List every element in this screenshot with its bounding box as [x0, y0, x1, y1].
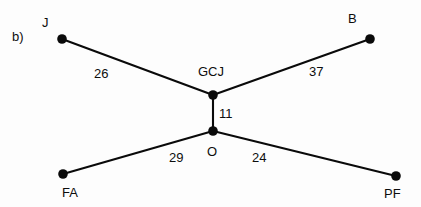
graph-edge: [213, 39, 370, 95]
graph-node-o: [208, 126, 218, 136]
graph-node-pf: [391, 171, 401, 181]
graph-node-gcj: [208, 90, 218, 100]
graph-edge: [213, 131, 396, 176]
node-label-o: O: [207, 145, 217, 158]
panel-label: b): [12, 30, 24, 43]
node-label-b: B: [348, 12, 357, 25]
graph-canvas: [0, 0, 421, 207]
node-label-j: J: [42, 16, 49, 29]
graph-edge: [62, 39, 213, 95]
node-label-gcj: GCJ: [198, 65, 224, 78]
edge-weight-label: 26: [94, 67, 108, 80]
edge-weight-label: 37: [309, 65, 323, 78]
graph-node-j: [57, 34, 67, 44]
graph-edge: [63, 131, 213, 174]
node-label-pf: PF: [384, 187, 401, 200]
edge-weight-label: 11: [219, 107, 233, 120]
figure-panel-b: b) JBGCJOFAPF 2637112924: [0, 0, 421, 207]
graph-node-b: [365, 34, 375, 44]
node-label-fa: FA: [62, 186, 78, 199]
edge-weight-label: 29: [169, 151, 183, 164]
edge-weight-label: 24: [252, 151, 266, 164]
graph-node-fa: [58, 169, 68, 179]
